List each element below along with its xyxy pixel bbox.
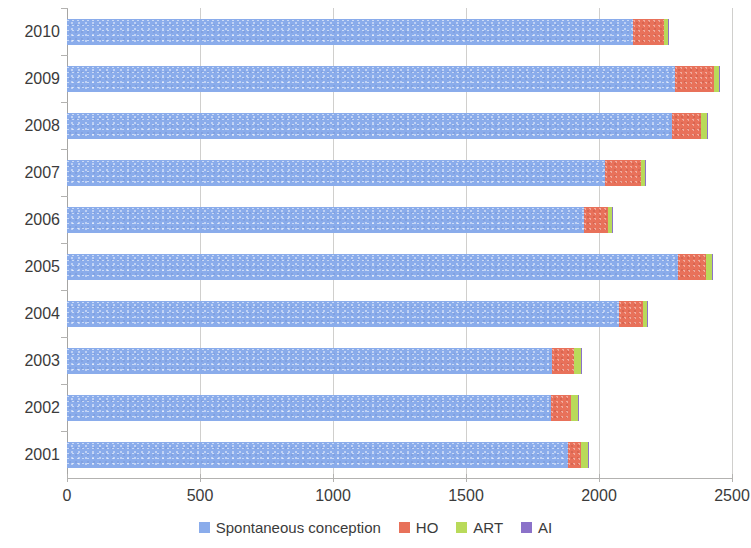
- legend-label: AI: [538, 519, 552, 536]
- legend-label: Spontaneous conception: [216, 519, 381, 536]
- x-tick-1500: [466, 474, 467, 482]
- bar-segment-spontaneous-conception[interactable]: [67, 348, 552, 374]
- y-tick-label-2005: 2005: [8, 258, 60, 276]
- y-tick-2007: [61, 149, 68, 150]
- y-tick-label-2004: 2004: [8, 305, 60, 323]
- bar-row[interactable]: [67, 348, 732, 374]
- bar-row[interactable]: [67, 160, 732, 186]
- y-tick-label-2008: 2008: [8, 117, 60, 135]
- bar-segment-art[interactable]: [571, 395, 578, 421]
- y-tick-label-2003: 2003: [8, 352, 60, 370]
- x-tick-2000: [599, 474, 600, 482]
- bar-row[interactable]: [67, 254, 732, 280]
- stacked-bar-chart: 05001000150020002500 2010200920082007200…: [0, 0, 751, 548]
- bar-row[interactable]: [67, 301, 732, 327]
- bar-segment-spontaneous-conception[interactable]: [67, 301, 619, 327]
- y-tick-label-2006: 2006: [8, 211, 60, 229]
- legend-label: HO: [416, 519, 439, 536]
- bar-segment-spontaneous-conception[interactable]: [67, 395, 551, 421]
- y-tick-2003: [61, 337, 68, 338]
- y-tick-2010: [61, 8, 68, 9]
- y-tick-2006: [61, 196, 68, 197]
- legend-item-ai[interactable]: AI: [521, 519, 552, 536]
- x-tick-1000: [333, 474, 334, 482]
- bar-segment-spontaneous-conception[interactable]: [67, 207, 584, 233]
- bar-row[interactable]: [67, 66, 732, 92]
- legend-item-ho[interactable]: HO: [399, 519, 439, 536]
- bar-segment-spontaneous-conception[interactable]: [67, 19, 633, 45]
- y-tick-2005: [61, 243, 68, 244]
- bar-segment-spontaneous-conception[interactable]: [67, 254, 678, 280]
- bar-segment-ho[interactable]: [678, 254, 706, 280]
- bar-segment-spontaneous-conception[interactable]: [67, 442, 568, 468]
- bar-segment-ai[interactable]: [707, 113, 708, 139]
- gridline-2500: [732, 8, 733, 478]
- bar-segment-ho[interactable]: [633, 19, 664, 45]
- x-tick-label-1000: 1000: [315, 487, 351, 505]
- legend-swatch-icon: [399, 522, 410, 533]
- bar-segment-ho[interactable]: [584, 207, 608, 233]
- plot-area: [67, 8, 732, 478]
- y-tick-label-2007: 2007: [8, 164, 60, 182]
- bar-segment-art[interactable]: [574, 348, 581, 374]
- x-axis-line: [67, 478, 732, 479]
- bar-segment-spontaneous-conception[interactable]: [67, 113, 672, 139]
- chart-legend: Spontaneous conceptionHOARTAI: [0, 519, 751, 536]
- bar-segment-spontaneous-conception[interactable]: [67, 66, 675, 92]
- bar-segment-ai[interactable]: [668, 19, 669, 45]
- y-tick-2002: [61, 384, 68, 385]
- y-tick-label-2010: 2010: [8, 23, 60, 41]
- bar-segment-ai[interactable]: [581, 348, 582, 374]
- x-tick-0: [67, 474, 68, 482]
- legend-swatch-icon: [456, 522, 467, 533]
- bar-segment-ai[interactable]: [712, 254, 713, 280]
- bar-segment-ai[interactable]: [578, 395, 579, 421]
- legend-item-spontaneous-conception[interactable]: Spontaneous conception: [199, 519, 381, 536]
- bar-segment-ho[interactable]: [568, 442, 581, 468]
- y-tick-2001: [61, 431, 68, 432]
- bar-row[interactable]: [67, 19, 732, 45]
- bar-row[interactable]: [67, 113, 732, 139]
- bar-segment-ho[interactable]: [619, 301, 643, 327]
- x-tick-label-2500: 2500: [714, 487, 750, 505]
- bar-segment-ho[interactable]: [551, 395, 571, 421]
- y-tick-2008: [61, 102, 68, 103]
- x-tick-label-0: 0: [63, 487, 72, 505]
- legend-swatch-icon: [199, 522, 210, 533]
- x-tick-2500: [732, 474, 733, 482]
- bar-row[interactable]: [67, 395, 732, 421]
- legend-swatch-icon: [521, 522, 532, 533]
- bar-row[interactable]: [67, 442, 732, 468]
- y-tick-2009: [61, 55, 68, 56]
- bar-segment-ho[interactable]: [605, 160, 641, 186]
- y-tick-label-2001: 2001: [8, 446, 60, 464]
- x-tick-label-500: 500: [187, 487, 214, 505]
- y-tick-2004: [61, 290, 68, 291]
- bar-segment-art[interactable]: [581, 442, 588, 468]
- x-tick-label-2000: 2000: [581, 487, 617, 505]
- bar-segment-ho[interactable]: [552, 348, 574, 374]
- x-tick-label-1500: 1500: [448, 487, 484, 505]
- bar-segment-spontaneous-conception[interactable]: [67, 160, 605, 186]
- bar-segment-ai[interactable]: [647, 301, 648, 327]
- legend-item-art[interactable]: ART: [456, 519, 503, 536]
- x-tick-500: [200, 474, 201, 482]
- bar-segment-ai[interactable]: [588, 442, 589, 468]
- bar-segment-ho[interactable]: [672, 113, 701, 139]
- bar-segment-ai[interactable]: [645, 160, 646, 186]
- bar-row[interactable]: [67, 207, 732, 233]
- legend-label: ART: [473, 519, 503, 536]
- bar-segment-ai[interactable]: [612, 207, 613, 233]
- bar-segment-ai[interactable]: [719, 66, 720, 92]
- y-tick-label-2002: 2002: [8, 399, 60, 417]
- bar-segment-ho[interactable]: [675, 66, 714, 92]
- y-tick-label-2009: 2009: [8, 70, 60, 88]
